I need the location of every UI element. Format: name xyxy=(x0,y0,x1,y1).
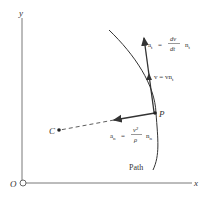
kinematics-diagram: y x O P C Path at = dv dt nt v = vnt an … xyxy=(0,0,216,200)
svg-text:=: = xyxy=(158,41,162,49)
svg-text:dv: dv xyxy=(170,35,176,42)
radius-dashed-line xyxy=(60,120,114,130)
origin-marker xyxy=(20,180,26,186)
svg-text:nn: nn xyxy=(146,132,153,141)
svg-text:at: at xyxy=(148,41,153,50)
svg-text:dt: dt xyxy=(170,45,175,52)
x-axis-label: x xyxy=(193,178,198,188)
svg-text:=: = xyxy=(121,132,125,140)
svg-text:v²: v² xyxy=(133,126,139,133)
point-c xyxy=(57,128,61,132)
velocity-arrowhead xyxy=(146,73,152,80)
svg-text:nt: nt xyxy=(185,41,191,50)
c-label: C xyxy=(49,126,56,136)
y-axis-label: y xyxy=(18,8,23,18)
origin-label: O xyxy=(10,179,17,189)
point-p xyxy=(153,111,157,115)
svg-text:an: an xyxy=(110,132,116,141)
path-curve xyxy=(109,30,158,170)
tangential-accel-equation: at = dv dt nt xyxy=(148,35,191,52)
p-label: P xyxy=(158,109,165,119)
velocity-label: v = vnt xyxy=(154,73,174,82)
path-label: Path xyxy=(129,163,143,172)
normal-accel-vector xyxy=(114,113,155,120)
svg-text:ρ: ρ xyxy=(133,136,137,143)
normal-accel-equation: an = v² ρ nn xyxy=(110,126,153,143)
